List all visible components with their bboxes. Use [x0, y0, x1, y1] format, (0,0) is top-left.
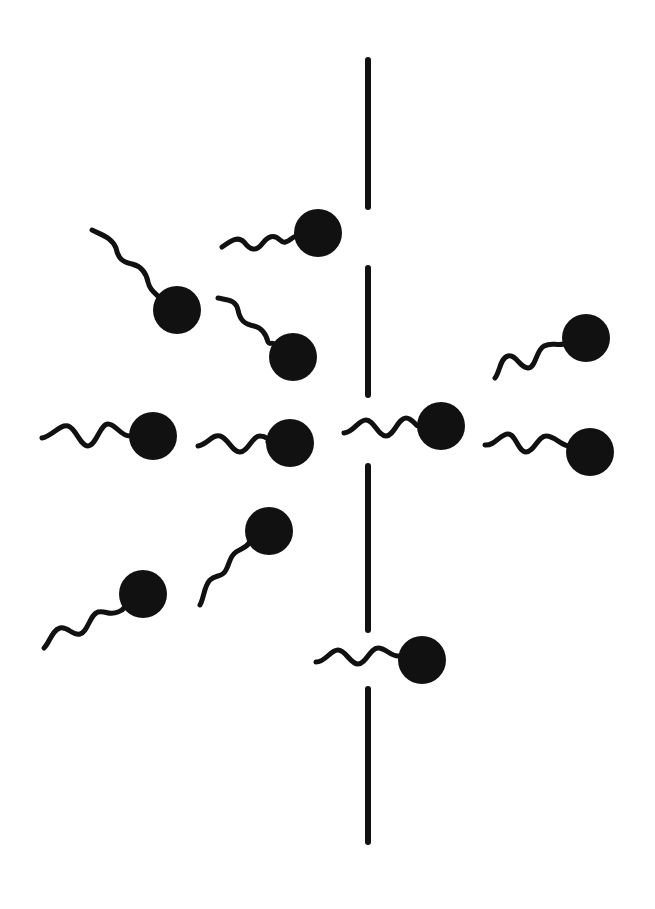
cell-head — [566, 428, 614, 476]
sperm-cell — [495, 314, 610, 378]
sperm-cell — [198, 419, 314, 467]
cell-head — [398, 636, 446, 684]
cell-head — [129, 412, 177, 460]
sperm-cell — [485, 428, 614, 476]
sperm-cell — [42, 412, 177, 460]
sperm-cell — [222, 209, 342, 257]
sperm-cell — [44, 570, 167, 648]
cell-head — [153, 286, 201, 334]
cell-head — [417, 402, 465, 450]
cell-head — [269, 333, 317, 381]
cell-head — [266, 419, 314, 467]
cell-head — [294, 209, 342, 257]
cell-head — [245, 507, 293, 555]
sperm-cell — [344, 402, 465, 450]
sperm-cell — [200, 507, 293, 605]
sperm-cell — [92, 230, 201, 334]
cell-head — [562, 314, 610, 362]
sperm-cell — [316, 636, 446, 684]
barrier-diagram — [0, 0, 655, 909]
sperm-cell — [218, 298, 317, 381]
cell-head — [119, 570, 167, 618]
cells-group — [42, 209, 614, 684]
